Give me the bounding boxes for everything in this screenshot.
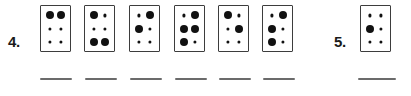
braille-dot-flat-r3-right xyxy=(60,40,63,43)
braille-cell-4-1 xyxy=(40,5,71,52)
braille-cell-4-3 xyxy=(129,5,160,52)
braille-dot-grid xyxy=(219,6,248,51)
braille-dot-raised-r3-left xyxy=(90,38,98,46)
braille-dot-raised-r1-right xyxy=(57,11,65,19)
braille-dot-flat-r1-left xyxy=(270,14,273,17)
braille-cell-5-1 xyxy=(360,5,391,52)
braille-dot-raised-r1-left xyxy=(90,11,98,19)
braille-dot-flat-r3-right xyxy=(282,40,285,43)
braille-dot-grid xyxy=(263,6,292,51)
braille-dot-flat-r2-left xyxy=(92,27,95,30)
answer-blank-4-3[interactable] xyxy=(130,78,162,80)
braille-dot-grid xyxy=(361,6,390,51)
braille-dot-raised-r2-left xyxy=(180,25,188,33)
braille-dot-grid xyxy=(41,6,70,51)
braille-dot-flat-r2-right xyxy=(380,27,383,30)
braille-dot-raised-r3-left xyxy=(268,38,276,46)
braille-dot-flat-r1-right xyxy=(380,14,383,17)
braille-dot-raised-r1-left xyxy=(224,11,232,19)
answer-blank-5-1[interactable] xyxy=(358,78,396,80)
braille-dot-flat-r2-right xyxy=(282,27,285,30)
braille-dot-flat-r2-right xyxy=(104,27,107,30)
braille-dot-flat-r3-left xyxy=(48,40,51,43)
braille-dot-flat-r1-left xyxy=(368,14,371,17)
braille-dot-raised-r2-left xyxy=(366,25,374,33)
braille-dot-flat-r2-left xyxy=(226,27,229,30)
braille-dot-raised-r2-right xyxy=(191,25,199,33)
braille-dot-flat-r2-right xyxy=(149,27,152,30)
braille-dot-flat-r2-right xyxy=(60,27,63,30)
answer-blank-4-2[interactable] xyxy=(85,78,117,80)
braille-dot-grid xyxy=(130,6,159,51)
braille-dot-raised-r1-right xyxy=(279,11,287,19)
braille-dot-grid xyxy=(85,6,114,51)
braille-dot-flat-r3-right xyxy=(380,40,383,43)
braille-dot-flat-r1-right xyxy=(238,14,241,17)
braille-cell-4-2 xyxy=(84,5,115,52)
braille-dot-raised-r3-right xyxy=(101,38,109,46)
braille-dot-raised-r2-right xyxy=(235,25,243,33)
braille-dot-flat-r1-left xyxy=(137,14,140,17)
braille-dot-raised-r1-right xyxy=(146,11,154,19)
braille-dot-raised-r2-left xyxy=(135,25,143,33)
braille-dot-flat-r2-left xyxy=(48,27,51,30)
braille-dot-flat-r3-right xyxy=(194,40,197,43)
braille-dot-flat-r1-left xyxy=(182,14,185,17)
braille-worksheet: 4.5. xyxy=(0,0,411,96)
braille-cell-4-6 xyxy=(262,5,293,52)
braille-dot-flat-r3-right xyxy=(238,40,241,43)
braille-dot-raised-r1-right xyxy=(191,11,199,19)
braille-dot-raised-r2-left xyxy=(268,25,276,33)
exercise-number-label: 4. xyxy=(8,34,20,49)
braille-dot-flat-r3-left xyxy=(226,40,229,43)
braille-cell-4-4 xyxy=(174,5,205,52)
braille-dot-raised-r1-left xyxy=(46,11,54,19)
exercise-number-label: 5. xyxy=(334,34,346,49)
answer-blank-4-5[interactable] xyxy=(219,78,251,80)
answer-blank-4-1[interactable] xyxy=(40,78,72,80)
braille-dot-flat-r3-left xyxy=(137,40,140,43)
answer-blank-4-4[interactable] xyxy=(175,78,207,80)
braille-dot-flat-r1-right xyxy=(104,14,107,17)
braille-dot-flat-r3-right xyxy=(149,40,152,43)
braille-dot-flat-r3-left xyxy=(368,40,371,43)
braille-cell-4-5 xyxy=(218,5,249,52)
answer-blank-4-6[interactable] xyxy=(263,78,295,80)
braille-dot-raised-r3-left xyxy=(180,38,188,46)
braille-dot-grid xyxy=(175,6,204,51)
